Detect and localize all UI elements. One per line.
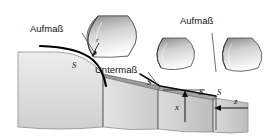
cutting-tool-right <box>222 38 261 71</box>
figure-canvas: r S Aufmaß Aufmaß Untermaß S S S x z <box>0 0 276 139</box>
aufmass-right-label: Aufmaß <box>180 15 213 26</box>
s-label-right-b: S <box>217 87 222 97</box>
aufmass-left-label: Aufmaß <box>30 23 63 34</box>
z-label: z <box>233 96 238 106</box>
workpiece-step-three <box>213 98 248 133</box>
leader-aufmass-right <box>212 33 216 72</box>
x-label: x <box>174 102 179 112</box>
workpiece-left-block <box>18 52 103 129</box>
cutting-tool-middle <box>157 38 195 70</box>
untermass-label: Untermaß <box>95 64 137 75</box>
radius-label: r <box>96 36 99 44</box>
